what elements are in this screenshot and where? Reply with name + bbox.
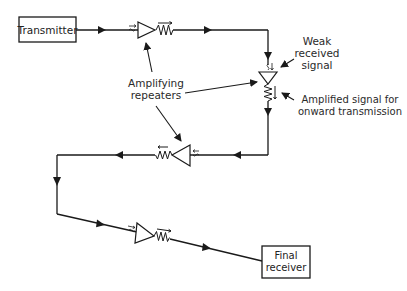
link-repeater4-receiver <box>170 239 262 261</box>
transmitter-label: Transmitter <box>19 17 76 42</box>
flow-arrow <box>202 243 211 251</box>
amplified-signal-icon <box>264 84 277 101</box>
flow-arrow <box>53 177 61 186</box>
weak-received-signal-label: Weak received signal <box>292 35 342 71</box>
flow-arrow <box>264 52 272 60</box>
repeater-3-triangle <box>172 145 190 166</box>
repeater-2-triangle <box>259 72 277 84</box>
amplified-signal-line-2: onward transmission <box>294 106 406 118</box>
weak-signal-line-1: Weak <box>292 35 342 47</box>
flow-arrow <box>264 108 272 116</box>
flow-arrow <box>233 151 241 159</box>
repeater-1-triangle <box>138 22 155 38</box>
amplifying-repeaters-line-2: repeaters <box>124 89 188 101</box>
final-receiver-label: Final receiver <box>262 246 310 278</box>
weak-signal-line-3: signal <box>292 59 342 71</box>
pointer-amplified-signal <box>282 93 294 100</box>
amplifying-repeaters-line-1: Amplifying <box>124 77 188 89</box>
pointer-to-repeater-2 <box>185 82 257 93</box>
amplifying-repeaters-label: Amplifying repeaters <box>124 77 188 101</box>
flow-arrow <box>204 26 212 34</box>
diagram-canvas <box>0 0 407 291</box>
amplified-signal-label: Amplified signal for onward transmission <box>294 94 406 118</box>
pointer-to-repeater-1 <box>146 43 152 72</box>
flow-arrow <box>96 220 105 228</box>
pointer-to-repeater-3 <box>156 106 181 141</box>
amplified-signal-icon <box>156 146 173 160</box>
amplified-signal-icon <box>154 229 171 242</box>
amplified-signal-line-1: Amplified signal for <box>294 94 406 106</box>
weak-signal-line-2: received <box>292 47 342 59</box>
weak-signal-icon <box>267 63 274 70</box>
repeater-4-triangle <box>135 223 154 243</box>
final-receiver-text-2: receiver <box>266 262 307 274</box>
amplified-signal-icon <box>156 22 173 36</box>
flow-arrow <box>115 151 123 159</box>
final-receiver-text-1: Final <box>274 250 297 262</box>
flow-arrow <box>98 26 106 34</box>
transmitter-text: Transmitter <box>18 24 78 36</box>
